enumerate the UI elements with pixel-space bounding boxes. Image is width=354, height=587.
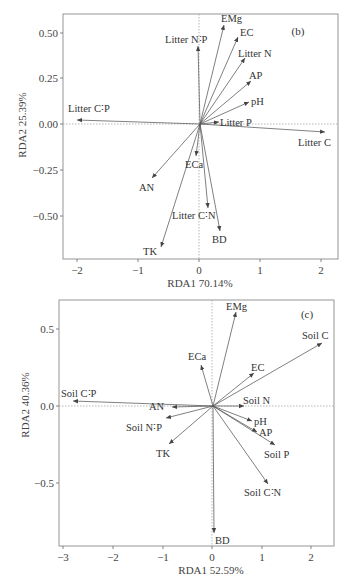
- vector-label-ec: EC: [240, 27, 253, 38]
- y-axis: 0.50 0.25 0.00 −0.25 −0.50: [33, 27, 63, 222]
- rda-biplot-c: 0.5 0.0 −0.5 −3 −2 −1 0 1 2 RDA1 52.59% …: [0, 290, 354, 587]
- x-tick-label: 1: [257, 264, 263, 276]
- x-tick-label: 1: [259, 551, 265, 563]
- vector-label-ph: pH: [254, 416, 267, 427]
- x-tick-label: 0: [209, 551, 215, 563]
- x-tick-label: −2: [71, 264, 83, 276]
- y-tick-label: 0.0: [40, 400, 54, 412]
- vector-label-eca: ECa: [188, 351, 206, 362]
- vector-label-ec: EC: [251, 362, 264, 373]
- y-axis-title: RDA2 25.39%: [16, 92, 28, 157]
- plot-frame: [59, 300, 334, 546]
- vector-label-bd: BD: [212, 234, 227, 245]
- vector-label-tk: TK: [143, 246, 157, 257]
- vector-label-litter-n: Litter N: [238, 48, 272, 59]
- y-axis-title: RDA2 40.36%: [19, 372, 31, 437]
- vector-label-soil-cp: Soil C∶P: [61, 388, 97, 399]
- x-axis-title: RDA1 52.59%: [178, 564, 243, 576]
- x-tick-label: −1: [157, 551, 169, 563]
- vector-label-emg: EMg: [221, 13, 243, 24]
- x-tick-label: −2: [107, 551, 119, 563]
- vector-label-soil-p: Soil P: [264, 449, 290, 460]
- x-axis: −3 −2 −1 0 1 2: [57, 546, 314, 563]
- rda-biplot-b: 0.50 0.25 0.00 −0.25 −0.50 −2 −1 0 1 2 R…: [0, 0, 354, 290]
- vector-label-litter-np: Litter N∶P: [165, 34, 208, 45]
- panel-label: (b): [292, 25, 305, 38]
- vector-label-tk: TK: [156, 448, 170, 459]
- vector-label-an: AN: [139, 182, 155, 193]
- y-tick-label: −0.50: [33, 210, 59, 222]
- vector-label-ap: AP: [259, 427, 273, 438]
- x-tick-label: 2: [308, 551, 314, 563]
- x-tick-label: −1: [132, 264, 144, 276]
- vector-label-soil-cn: Soil C∶N: [244, 487, 282, 498]
- y-tick-label: 0.25: [39, 72, 59, 84]
- vector-label-litter-cn: Litter C∶N: [172, 210, 216, 221]
- x-tick-label: 2: [318, 264, 324, 276]
- vector-label-ph: pH: [251, 96, 264, 107]
- vector-label-litter-cp: Litter C∶P: [68, 103, 110, 114]
- vector-labels: EMg EC Litter N∶P Litter N AP pH Litter …: [68, 13, 331, 257]
- vectors: [73, 312, 322, 533]
- x-axis-title: RDA1 70.14%: [167, 277, 232, 289]
- vector-label-ap: AP: [249, 70, 263, 81]
- x-tick-label: 0: [196, 264, 202, 276]
- vector-label-soil-np: Soil N∶P: [126, 422, 162, 433]
- vector-label-bd: BD: [215, 535, 230, 546]
- plot-frame: [63, 14, 338, 259]
- vector-label-an: AN: [149, 401, 165, 412]
- x-tick-label: −3: [57, 551, 69, 563]
- y-axis: 0.5 0.0 −0.5: [34, 323, 59, 489]
- y-tick-label: 0.50: [39, 27, 59, 39]
- y-tick-label: −0.25: [33, 164, 59, 176]
- panel-label: (c): [301, 308, 314, 321]
- y-tick-label: 0.00: [39, 118, 59, 130]
- y-tick-label: −0.5: [34, 477, 54, 489]
- vector-label-eca: ECa: [185, 159, 203, 170]
- vector-label-soil-c: Soil C: [302, 330, 329, 341]
- vector-label-soil-n: Soil N: [243, 395, 271, 406]
- vector-label-litter-c: Litter C: [298, 137, 331, 148]
- vector-labels: EMg Soil C ECa EC Soil N Soil C∶P AN Soi…: [61, 301, 329, 546]
- vector-label-emg: EMg: [226, 301, 248, 312]
- vector-label-litter-p: Litter P: [220, 117, 252, 128]
- x-axis: −2 −1 0 1 2: [71, 259, 324, 276]
- y-tick-label: 0.5: [40, 323, 54, 335]
